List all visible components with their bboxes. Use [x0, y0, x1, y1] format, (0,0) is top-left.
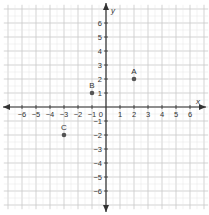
x-axis-left-arrow-icon [3, 104, 10, 110]
point-label-c: C [61, 123, 67, 132]
x-tick-label: 6 [188, 110, 192, 119]
x-axis-right-arrow-icon [199, 104, 206, 110]
y-axis-down-arrow-icon [103, 205, 109, 212]
y-tick-label: −4 [93, 159, 102, 168]
y-tick-label: 1 [98, 89, 102, 98]
axes [3, 3, 206, 212]
x-tick-label: 3 [146, 110, 150, 119]
x-tick-label: −2 [74, 110, 83, 119]
point-label-b: B [89, 81, 94, 90]
x-tick-label: −5 [32, 110, 41, 119]
y-tick-label: 6 [98, 19, 102, 28]
y-tick-label: −3 [93, 145, 102, 154]
origin-label: 0 [99, 110, 103, 119]
coordinate-plane: yx−6−5−4−3−2−1123456654321−1−2−3−4−5−60 … [0, 0, 209, 215]
point-c [62, 133, 67, 138]
y-tick-label: 4 [98, 47, 102, 56]
coordinate-plane-svg: yx−6−5−4−3−2−1123456654321−1−2−3−4−5−60 … [0, 0, 209, 215]
point-label-a: A [131, 67, 137, 76]
x-tick-label: −4 [46, 110, 55, 119]
tick-labels: yx−6−5−4−3−2−1123456654321−1−2−3−4−5−60 [18, 6, 201, 195]
x-tick-label: 5 [174, 110, 178, 119]
x-tick-label: 4 [160, 110, 164, 119]
y-tick-label: −2 [93, 131, 102, 140]
y-tick-label: 2 [98, 75, 102, 84]
y-tick-label: −5 [93, 173, 102, 182]
x-tick-label: −6 [18, 110, 27, 119]
x-tick-label: −3 [60, 110, 69, 119]
y-tick-label: −6 [93, 187, 102, 196]
point-a [132, 77, 137, 82]
y-axis-up-arrow-icon [103, 3, 109, 10]
point-b [90, 91, 95, 96]
x-tick-label: 2 [132, 110, 136, 119]
x-tick-label: 1 [118, 110, 122, 119]
y-tick-label: 3 [98, 61, 102, 70]
y-axis-label: y [110, 6, 116, 15]
y-tick-label: 5 [98, 33, 102, 42]
